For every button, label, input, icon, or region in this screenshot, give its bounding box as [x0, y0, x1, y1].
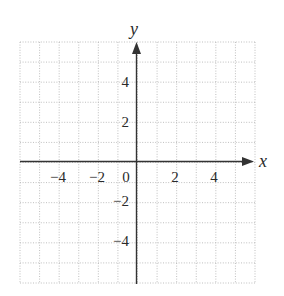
- y-tick-label: −2: [113, 193, 129, 209]
- x-tick-label: 4: [210, 169, 218, 185]
- x-axis-arrow-icon: [242, 157, 254, 166]
- y-axis-label: y: [128, 19, 138, 39]
- x-tick-label: −4: [50, 169, 66, 185]
- y-tick-label: −4: [113, 233, 129, 249]
- y-tick-label: 4: [122, 74, 130, 90]
- x-axis-label: x: [258, 151, 267, 171]
- grid-lines: [20, 42, 255, 283]
- coordinate-plane: x y −4 −2 0 2 4 4 2 −2 −4: [0, 0, 284, 296]
- x-tick-label: 0: [122, 169, 130, 185]
- x-tick-label: 2: [171, 169, 179, 185]
- x-tick-label: −2: [89, 169, 105, 185]
- y-tick-label: 2: [122, 114, 130, 130]
- y-axis-arrow-icon: [132, 42, 141, 54]
